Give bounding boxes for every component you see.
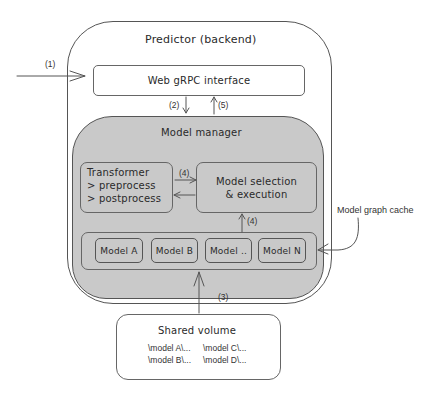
arrow-step-3-icon <box>194 272 204 313</box>
arrow-step-1-icon <box>17 71 85 81</box>
arrow-to-selection-icon <box>175 177 196 183</box>
arrow-step-5-icon <box>211 97 217 114</box>
connector-arrows <box>0 0 435 395</box>
arrow-models-to-selection-icon <box>239 214 245 232</box>
arrow-to-transformer-icon <box>174 192 195 198</box>
arrow-model-graph-cache-icon <box>318 218 358 254</box>
arrow-step-2-icon <box>183 97 189 113</box>
